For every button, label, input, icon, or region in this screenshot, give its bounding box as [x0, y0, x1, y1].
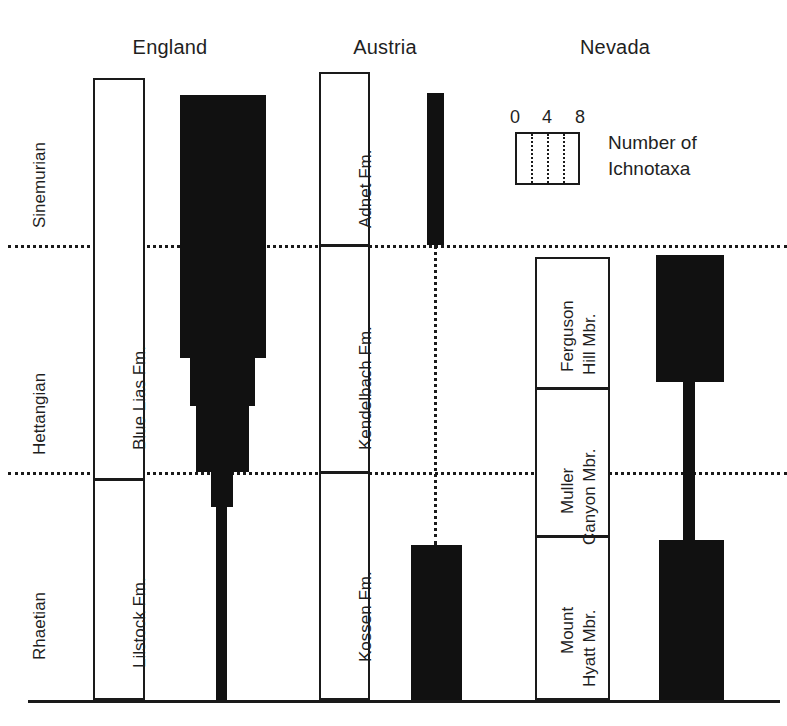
legend-gridline-2: [531, 134, 533, 183]
england-bar-step-1: [180, 95, 266, 358]
england-unit-divider: [95, 478, 143, 481]
legend-gridline-6: [563, 134, 565, 183]
austria-bar-kossen: [411, 545, 462, 700]
england-bar-step-3: [196, 406, 249, 472]
austria-unit-divider-adnet-kendelbach: [321, 244, 368, 247]
nevada-unit-label-mount-line1: Mount: [558, 607, 577, 654]
austria-unit-divider-kendelbach-kossen: [321, 471, 368, 474]
austria-bar-zero-connector: [434, 245, 437, 545]
england-bar-step-4: [211, 472, 233, 507]
england-unit-label-lilstock: Lilstock Fm.: [130, 577, 149, 668]
england-bar-step-5: [216, 507, 227, 700]
austria-unit-label-adnet: Adnet Fm.: [356, 150, 375, 228]
stage-label-hettangian: Hettangian: [30, 373, 50, 455]
nevada-unit-label-mount-line2: Hyatt Mbr.: [580, 610, 599, 687]
region-title-england: England: [100, 36, 240, 59]
legend-gridline-4: [547, 134, 549, 183]
stage-label-rhaetian: Rhaetian: [30, 592, 50, 660]
nevada-unit-label-ferguson-line2: Hill Mbr.: [580, 314, 599, 375]
nevada-unit-label-muller-line2: Canyon Mbr.: [580, 449, 599, 545]
england-bar-step-2: [190, 358, 255, 406]
england-unit-label-blue-lias: Blue Lias Fm.: [130, 346, 149, 450]
nevada-bar-mount-hyatt: [659, 540, 724, 700]
chart-canvas: England Austria Nevada Sinemurian Hettan…: [0, 0, 787, 726]
austria-unit-label-kossen: Kossen Fm.: [356, 571, 375, 662]
region-title-nevada: Nevada: [550, 36, 680, 59]
nevada-bar-ferguson-hill: [656, 255, 724, 382]
austria-unit-label-kendelbach: Kendelbach Fm.: [356, 326, 375, 450]
legend-caption-line1: Number of: [608, 130, 697, 156]
legend-tick-label-8: 8: [565, 107, 595, 128]
legend-caption-line2: Ichnotaxa: [608, 156, 690, 182]
austria-bar-adnet: [427, 93, 444, 245]
chart-baseline: [28, 700, 780, 703]
nevada-unit-label-muller-line1: Muller: [558, 468, 577, 514]
region-title-austria: Austria: [325, 36, 445, 59]
legend-tick-label-0: 0: [500, 107, 530, 128]
nevada-bar-muller-canyon: [683, 382, 695, 540]
nevada-unit-label-ferguson-line1: Ferguson: [558, 300, 577, 372]
nevada-unit-divider-ferguson-muller: [537, 387, 608, 390]
legend-tick-label-4: 4: [532, 107, 562, 128]
legend-scale-box: [515, 132, 580, 185]
stage-label-sinemurian: Sinemurian: [30, 142, 50, 228]
